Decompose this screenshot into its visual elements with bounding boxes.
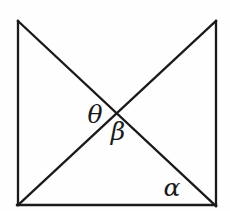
angle-beta-label: β [110,117,125,146]
angle-theta-label: θ [87,100,102,129]
diagram-canvas: θβα [0,0,230,211]
geometry-figure: θβα [0,0,230,211]
angle-alpha-label: α [164,173,181,202]
